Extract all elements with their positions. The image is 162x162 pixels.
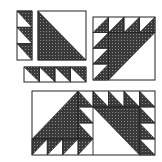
quilt-assembly-diagram [0,0,162,162]
horizontal-strip [24,67,86,82]
vertical-strip [17,11,32,60]
large-triangle-square [38,11,86,60]
assembled-block-top-right [93,17,155,80]
paired-blocks-bottom [32,91,155,155]
